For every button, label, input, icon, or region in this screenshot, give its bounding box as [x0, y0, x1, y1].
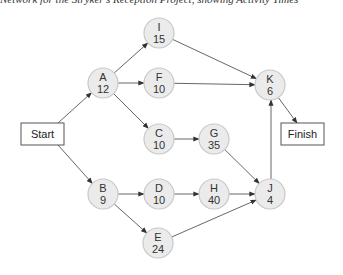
edge-i-to-k — [173, 39, 257, 78]
activity-id: D — [155, 182, 163, 194]
edge-k-to-finish — [278, 98, 297, 123]
finish-label: Finish — [288, 128, 317, 140]
activity-node-f: F10 — [144, 68, 174, 98]
activity-node-c: C10 — [144, 124, 174, 154]
edge-start-to-a — [58, 93, 92, 123]
activity-id: A — [99, 71, 107, 83]
activity-id: H — [210, 182, 218, 194]
activity-time: 9 — [100, 194, 106, 206]
start-box: Start — [21, 123, 64, 145]
activity-id: G — [210, 127, 219, 139]
activity-node-j: J4 — [255, 179, 285, 209]
activity-time: 24 — [152, 243, 164, 255]
activity-node-i: I15 — [144, 18, 174, 48]
edge-start-to-b — [58, 145, 92, 183]
activity-time: 10 — [153, 139, 165, 151]
start-label: Start — [31, 128, 54, 140]
activity-node-d: D10 — [144, 179, 174, 209]
activity-node-k: K6 — [255, 70, 285, 100]
activity-id: J — [267, 182, 273, 194]
edge-f-to-k — [174, 83, 255, 84]
activity-id: I — [157, 21, 160, 33]
activity-time: 10 — [153, 83, 165, 95]
activity-time: 6 — [267, 85, 273, 97]
activity-node-b: B9 — [88, 179, 118, 209]
activity-id: E — [154, 231, 161, 243]
activity-time: 35 — [208, 139, 220, 151]
edges-layer — [58, 39, 297, 237]
edge-g-to-j — [225, 150, 260, 184]
activity-time: 4 — [267, 194, 273, 206]
finish-box: Finish — [281, 123, 324, 145]
activity-time: 10 — [153, 194, 165, 206]
activity-time: 12 — [97, 83, 109, 95]
activity-time: 15 — [153, 33, 165, 45]
activity-node-h: H40 — [199, 179, 229, 209]
activity-node-e: E24 — [143, 228, 173, 258]
edge-b-to-e — [114, 204, 147, 233]
nodes-layer: A12I15F10C10G35K6B9D10H40J4E24 — [88, 18, 285, 258]
activity-node-a: A12 — [88, 68, 118, 98]
activity-id: F — [156, 71, 163, 83]
activity-node-g: G35 — [199, 124, 229, 154]
activity-time: 40 — [208, 194, 220, 206]
activity-id: B — [99, 182, 106, 194]
activity-id: C — [155, 127, 163, 139]
edge-a-to-i — [114, 43, 148, 73]
edge-a-to-c — [114, 94, 149, 129]
project-network-diagram: StartFinish A12I15F10C10G35K6B9D10H40J4E… — [0, 0, 343, 275]
activity-id: K — [266, 73, 274, 85]
